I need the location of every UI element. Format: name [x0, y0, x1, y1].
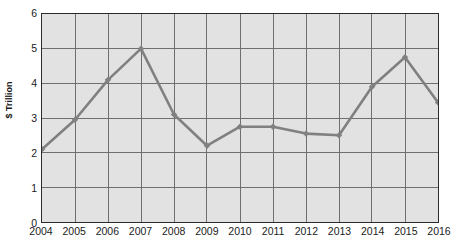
y-axis-tick-labels: 6543210: [6, 0, 37, 248]
y-axis-tick-label: 3: [7, 113, 37, 124]
data-point-marker: [303, 130, 309, 136]
y-axis-tick-label: 5: [7, 43, 37, 54]
plot-area: [41, 13, 439, 223]
y-axis-tick-label: 1: [7, 183, 37, 194]
chart-title: [18, 0, 458, 3]
x-axis-tick-labels: 2004200520062007200820092010201120122013…: [0, 226, 461, 244]
x-axis-tick-label: 2016: [414, 226, 461, 237]
data-point-marker: [270, 123, 276, 129]
y-axis-tick-label: 2: [7, 148, 37, 159]
y-axis-tick-label: 6: [7, 8, 37, 19]
series-line: [42, 49, 438, 150]
line-series: [42, 14, 438, 222]
y-axis-tick-label: 4: [7, 78, 37, 89]
